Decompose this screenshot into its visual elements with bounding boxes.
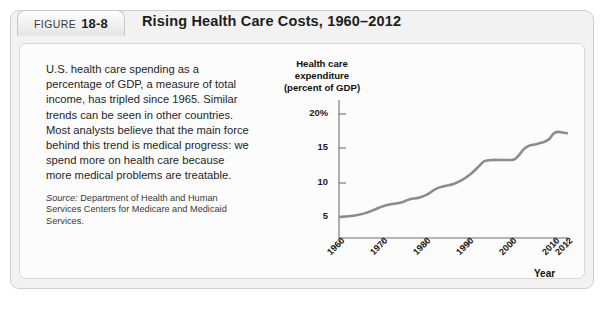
caption-body-text: U.S. health care spending as a percentag…: [46, 62, 251, 184]
figure-panel: FIGURE 18-8 Rising Health Care Costs, 19…: [0, 0, 604, 309]
caption-source: Source: Department of Health and Human S…: [46, 193, 251, 228]
figure-tab: FIGURE 18-8: [17, 10, 125, 36]
y-tick-label-10: 10: [286, 176, 328, 187]
chart: Health care expenditure (percent of GDP): [266, 52, 576, 278]
figure-tab-number: 18-8: [81, 16, 108, 31]
y-tick-label-20: 20%: [286, 107, 328, 118]
y-axis-ticks: [339, 114, 346, 217]
x-axis-title: Year: [534, 268, 555, 279]
source-lead: Source:: [46, 193, 78, 203]
figure-tab-word: FIGURE: [34, 18, 76, 30]
chart-axes: [339, 100, 568, 238]
figure-content-card: U.S. health care spending as a percentag…: [19, 43, 585, 279]
y-tick-label-15: 15: [286, 141, 328, 152]
figure-title: Rising Health Care Costs, 1960–2012: [142, 13, 401, 29]
figure-caption: U.S. health care spending as a percentag…: [46, 62, 251, 227]
y-tick-label-5: 5: [286, 210, 328, 221]
data-series-line: [340, 132, 567, 217]
